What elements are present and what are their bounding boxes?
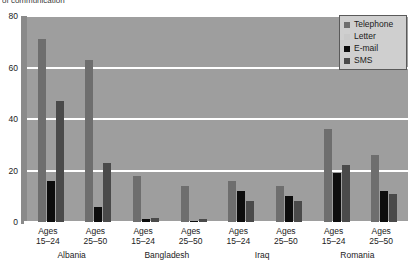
bar <box>228 181 236 222</box>
bar <box>94 207 102 222</box>
bar-chart: of communication 020406080 TelephoneLett… <box>0 0 409 266</box>
bar <box>276 186 284 222</box>
x-axis-age-line2: 25–50 <box>167 236 215 246</box>
x-axis-age-line1: Ages <box>262 226 310 236</box>
bar <box>333 173 341 222</box>
bar <box>56 101 64 222</box>
x-axis-age-line1: Ages <box>310 226 358 236</box>
x-axis-country-label: Romania <box>310 250 405 260</box>
y-axis-tick-label: 0 <box>13 218 18 226</box>
legend-swatch-icon <box>344 46 350 52</box>
bar <box>190 221 198 223</box>
legend-item[interactable]: E-mail <box>343 43 403 54</box>
legend-item[interactable]: SMS <box>343 55 403 66</box>
x-axis-group-label: Ages25–50 <box>357 226 405 246</box>
legend-item[interactable]: Telephone <box>343 19 403 30</box>
x-axis-group-label: Ages15–24 <box>310 226 358 246</box>
y-axis-tick-label: 60 <box>9 64 18 72</box>
bar <box>342 165 350 222</box>
x-axis-age-line2: 25–50 <box>262 236 310 246</box>
x-axis-age-line2: 15–24 <box>215 236 263 246</box>
y-axis-tick-labels: 020406080 <box>0 16 20 222</box>
x-axis-group-label: Ages25–50 <box>167 226 215 246</box>
x-axis-age-line2: 25–50 <box>72 236 120 246</box>
x-axis-age-line1: Ages <box>215 226 263 236</box>
x-axis-country-label: Bangladesh <box>119 250 214 260</box>
bar <box>371 155 379 222</box>
legend-swatch-icon <box>344 58 350 64</box>
x-axis-age-line1: Ages <box>72 226 120 236</box>
bar <box>380 191 388 222</box>
x-axis-group-label: Ages25–50 <box>72 226 120 246</box>
x-axis-age-line1: Ages <box>119 226 167 236</box>
bar <box>389 194 397 222</box>
y-axis-tick-label: 80 <box>9 12 18 20</box>
bar <box>142 219 150 222</box>
bar <box>38 39 46 222</box>
y-axis-tick-label: 20 <box>9 167 18 175</box>
x-axis-age-line2: 25–50 <box>357 236 405 246</box>
bar <box>237 191 245 222</box>
x-axis-age-line1: Ages <box>167 226 215 236</box>
legend-label: Telephone <box>354 20 393 29</box>
legend-label: E-mail <box>354 44 378 53</box>
x-axis-group-label: Ages15–24 <box>119 226 167 246</box>
legend-item[interactable]: Letter <box>343 31 403 42</box>
x-axis-age-line1: Ages <box>357 226 405 236</box>
bar <box>181 186 189 222</box>
x-axis-group-label: Ages15–24 <box>24 226 72 246</box>
y-axis-tick-label: 40 <box>9 115 18 123</box>
legend-swatch-icon <box>344 22 350 28</box>
bar <box>103 163 111 222</box>
x-axis-country-label: Albania <box>24 250 119 260</box>
legend-label: SMS <box>354 56 372 65</box>
chart-title: of communication <box>2 0 65 4</box>
bar <box>133 176 141 222</box>
x-axis-country-label: Iraq <box>215 250 310 260</box>
bar <box>85 60 93 222</box>
bar <box>47 181 55 222</box>
bar <box>294 201 302 222</box>
bar <box>324 129 332 222</box>
x-axis-age-line1: Ages <box>24 226 72 236</box>
bar <box>199 219 207 222</box>
bar <box>246 201 254 222</box>
x-axis-age-line2: 15–24 <box>310 236 358 246</box>
bar <box>151 218 159 222</box>
legend-swatch-icon <box>344 34 350 40</box>
x-axis-country-labels: AlbaniaBangladeshIraqRomania <box>24 250 405 266</box>
x-axis-group-label: Ages15–24 <box>215 226 263 246</box>
bar <box>285 196 293 222</box>
legend-label: Letter <box>354 32 376 41</box>
chart-legend: TelephoneLetterE-mailSMS <box>339 15 407 70</box>
x-axis-group-label: Ages25–50 <box>262 226 310 246</box>
x-axis-age-line2: 15–24 <box>119 236 167 246</box>
x-axis-age-line2: 15–24 <box>24 236 72 246</box>
